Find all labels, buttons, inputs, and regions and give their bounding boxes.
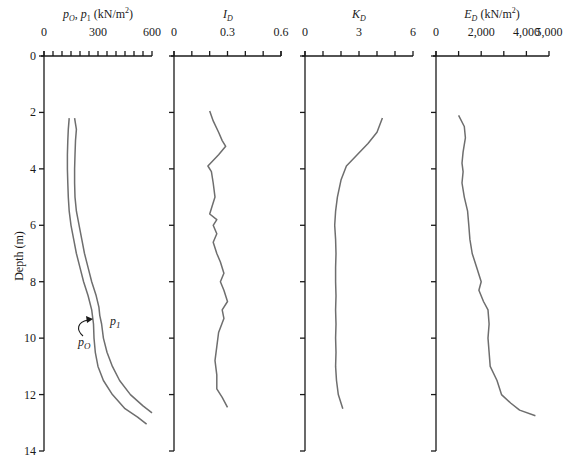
svg-text:p1: p1	[109, 314, 121, 330]
series-id-line	[208, 111, 228, 407]
x-tick-label: 2,000	[468, 25, 495, 39]
x-tick-label: 0	[433, 25, 439, 39]
series-po-line	[67, 118, 146, 424]
y-axis-label: Depth (m)	[12, 231, 26, 281]
x-tick-label: 0	[171, 25, 177, 39]
p1-annotation: p1	[109, 314, 121, 330]
depth-tick-label: 8	[30, 275, 36, 289]
series-p1-line	[75, 118, 152, 413]
x-tick-label: 600	[143, 25, 161, 39]
panel-ed: ED (kN/m2)02,0004,0005,000	[431, 6, 563, 451]
p0-arrow-icon	[79, 320, 88, 336]
x-tick-label: 0.6	[274, 25, 289, 39]
depth-tick-label: 4	[30, 162, 36, 176]
panel-p0-p1: pO, p1 (kN/m2)0300600	[39, 6, 161, 451]
x-tick-label: 0	[41, 25, 47, 39]
x-tick-label: 6	[410, 25, 416, 39]
depth-tick-label: 0	[30, 49, 36, 63]
series-kd-line	[335, 118, 383, 409]
x-axis-title: pO, p1 (kN/m2)	[62, 6, 133, 23]
x-tick-label: 300	[89, 25, 107, 39]
x-tick-label: 3	[356, 25, 362, 39]
x-axis-title: ED (kN/m2)	[463, 6, 519, 23]
depth-tick-label: 10	[24, 331, 36, 345]
panel-kd: KD036	[300, 7, 416, 451]
p0-annotation: pO	[77, 316, 93, 351]
x-axis-title: ID	[222, 7, 233, 23]
depth-tick-label: 2	[30, 105, 36, 119]
x-tick-label: 5,000	[536, 25, 563, 39]
depth-profile-figure: Depth (m) 02468101214 pO, p1 (kN/m2)0300…	[0, 0, 580, 469]
series-ed-line	[459, 115, 536, 415]
x-axis-title: KD	[351, 7, 366, 23]
svg-text:pO: pO	[77, 335, 91, 351]
depth-tick-label: 6	[30, 218, 36, 232]
panel-id: ID00.30.6	[169, 7, 289, 451]
depth-tick-label: 14	[24, 444, 36, 458]
x-tick-label: 0.3	[220, 25, 235, 39]
x-tick-label: 0	[302, 25, 308, 39]
depth-tick-label: 12	[24, 388, 36, 402]
